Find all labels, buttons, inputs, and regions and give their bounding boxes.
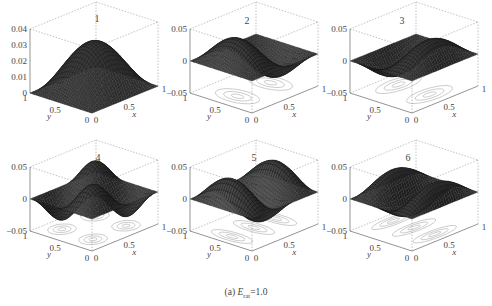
surface-plot: 0.050−0.0500.5100.51xy (320, 138, 484, 278)
svg-text:x: x (451, 109, 456, 119)
svg-text:x: x (451, 247, 456, 257)
subplot-5: 5 0.050−0.0500.5100.51xy (160, 150, 324, 290)
svg-text:y: y (206, 111, 211, 121)
svg-text:0: 0 (343, 56, 348, 66)
svg-text:y: y (46, 249, 51, 259)
svg-text:0.01: 0.01 (11, 72, 27, 82)
svg-text:x: x (131, 247, 136, 257)
surface-plot: 0.050−0.0500.5100.51xy (160, 138, 324, 278)
svg-text:y: y (366, 249, 371, 259)
svg-text:0: 0 (405, 115, 410, 125)
svg-text:0.5: 0.5 (209, 105, 221, 115)
svg-text:x: x (291, 247, 296, 257)
svg-text:0.05: 0.05 (331, 162, 347, 172)
svg-text:0.05: 0.05 (11, 162, 27, 172)
svg-text:0.03: 0.03 (11, 40, 27, 50)
surface-plot: 0.050−0.0500.5100.51xy (0, 138, 164, 278)
svg-text:0: 0 (414, 115, 419, 125)
svg-text:1: 1 (343, 231, 348, 241)
surface-plot: 0.050−0.0500.5100.51xy (160, 0, 324, 140)
svg-text:x: x (291, 109, 296, 119)
svg-text:0: 0 (343, 194, 348, 204)
svg-text:0: 0 (94, 253, 99, 263)
svg-text:1: 1 (183, 231, 188, 241)
svg-text:0: 0 (23, 194, 28, 204)
svg-text:0.05: 0.05 (171, 162, 187, 172)
surface-plot: 0.050−0.0500.5100.51xy (320, 0, 484, 140)
svg-text:1: 1 (482, 84, 487, 94)
svg-text:0: 0 (85, 253, 90, 263)
surface-mesh (30, 161, 158, 220)
svg-text:0: 0 (183, 56, 188, 66)
svg-text:0.04: 0.04 (11, 24, 27, 34)
svg-text:0.5: 0.5 (369, 105, 381, 115)
svg-text:x: x (131, 109, 136, 119)
surface-plot: 0.040.030.020.01000.5100.51xy (0, 0, 164, 140)
subplot-6: 6 0.050−0.0500.5100.51xy (320, 150, 484, 290)
svg-text:0.5: 0.5 (49, 105, 61, 115)
surface-mesh (190, 34, 318, 81)
svg-text:0: 0 (85, 115, 90, 125)
svg-text:0.05: 0.05 (331, 24, 347, 34)
svg-text:1: 1 (343, 93, 348, 103)
svg-text:y: y (366, 111, 371, 121)
svg-text:1: 1 (23, 231, 28, 241)
svg-text:y: y (206, 249, 211, 259)
svg-text:0.5: 0.5 (49, 243, 61, 253)
svg-text:0.5: 0.5 (369, 243, 381, 253)
svg-text:0: 0 (94, 115, 99, 125)
svg-text:0: 0 (254, 253, 259, 263)
subplot-3: 3 0.050−0.0500.5100.51xy (320, 0, 484, 140)
svg-text:1: 1 (482, 222, 487, 232)
surface-mesh (30, 40, 158, 113)
svg-text:0: 0 (183, 194, 188, 204)
surface-mesh (190, 160, 318, 222)
surface-mesh (350, 168, 478, 219)
svg-text:0: 0 (245, 253, 250, 263)
subplot-1: 1 0.040.030.020.01000.5100.51xy (0, 0, 164, 140)
svg-text:1: 1 (183, 93, 188, 103)
svg-text:0: 0 (245, 115, 250, 125)
svg-text:0.05: 0.05 (171, 24, 187, 34)
svg-text:1: 1 (23, 93, 28, 103)
svg-text:0: 0 (405, 253, 410, 263)
figure-caption: (a) Erat=1.0 (0, 287, 492, 299)
svg-text:y: y (46, 111, 51, 121)
svg-text:0.02: 0.02 (11, 56, 27, 66)
subplot-4: 4 0.050−0.0500.5100.51xy (0, 150, 164, 290)
svg-text:0: 0 (254, 115, 259, 125)
surface-mesh (350, 34, 478, 81)
svg-text:0.5: 0.5 (209, 243, 221, 253)
svg-text:0: 0 (414, 253, 419, 263)
subplot-2: 2 0.050−0.0500.5100.51xy (160, 0, 324, 140)
